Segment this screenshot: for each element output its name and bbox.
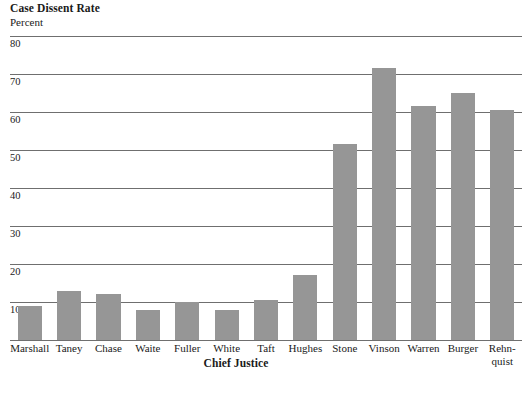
bar [254, 300, 278, 340]
bar [18, 306, 42, 340]
bar [333, 144, 357, 340]
bar [215, 310, 239, 340]
x-tick-label: Fuller [168, 342, 207, 355]
x-tick-label: Vinson [364, 342, 403, 355]
x-tick-label: Taft [246, 342, 285, 355]
bar-series [10, 36, 522, 340]
x-tick-label: Chase [89, 342, 128, 355]
chart-figure: Case Dissent Rate Percent 10203040506070… [0, 0, 522, 395]
axis-baseline [10, 340, 522, 341]
x-tick-label: Waite [128, 342, 167, 355]
x-tick-label: Warren [404, 342, 443, 355]
x-tick-label: Stone [325, 342, 364, 355]
bar [372, 68, 396, 340]
bar [451, 93, 475, 340]
bar [175, 302, 199, 340]
x-tick-label: Marshall [10, 342, 49, 355]
bar [96, 294, 120, 340]
x-tick-label: Taney [49, 342, 88, 355]
x-tick-label: Hughes [286, 342, 325, 355]
bar [293, 275, 317, 340]
plot-area: 1020304050607080 [10, 36, 522, 340]
bar [490, 110, 514, 340]
chart-subtitle: Percent [10, 16, 43, 28]
bar [57, 291, 81, 340]
x-tick-label: White [207, 342, 246, 355]
bar [136, 310, 160, 340]
x-tick-label: Burger [443, 342, 482, 355]
bar [411, 106, 435, 340]
x-axis-title: Chief Justice [10, 357, 462, 369]
chart-title: Case Dissent Rate [10, 2, 100, 14]
x-tick-label: Rehn- quist [483, 342, 522, 368]
